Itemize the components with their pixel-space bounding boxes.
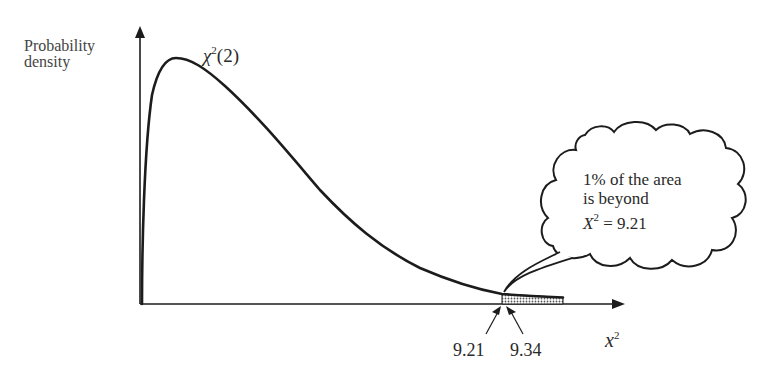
tick-arrow-934 <box>506 306 523 334</box>
y-axis-label-line2: density <box>24 54 95 70</box>
x-axis-label: x2 <box>605 326 619 349</box>
y-axis-arrow-icon <box>135 26 145 38</box>
callout-line-3: X2 = 9.21 <box>583 208 682 233</box>
x-axis-label-base: x <box>605 329 614 351</box>
series-label: χ2(2) <box>203 41 239 65</box>
callout-line-1: 1% of the area <box>583 170 682 189</box>
tick-label-934: 9.34 <box>510 341 542 359</box>
callout-line-2: is beyond <box>583 189 682 208</box>
callout-text: 1% of the area is beyond X2 = 9.21 <box>583 170 682 233</box>
callout-var: X <box>583 214 593 233</box>
tick-arrow-921 <box>486 306 501 334</box>
x-axis-label-sup: 2 <box>614 329 620 341</box>
x-axis-arrow-icon <box>612 299 625 309</box>
chi-square-curve <box>142 58 563 304</box>
y-axis-label: Probability density <box>24 38 95 70</box>
y-axis-label-line1: Probability <box>24 38 95 54</box>
callout-value: = 9.21 <box>599 214 647 233</box>
tick-label-921: 9.21 <box>453 341 485 359</box>
series-label-df: (2) <box>217 45 239 66</box>
